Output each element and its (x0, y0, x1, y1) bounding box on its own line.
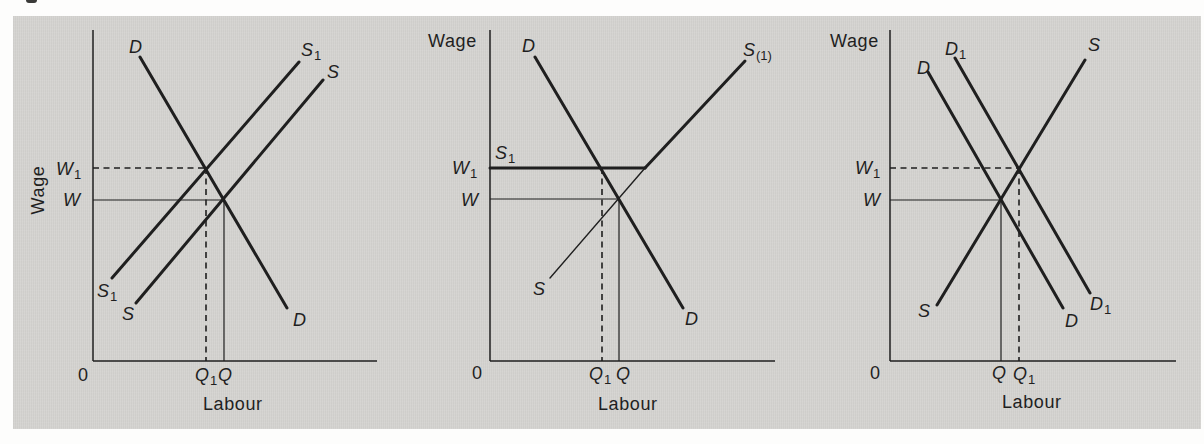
label-S1-bottom: S1 (97, 281, 117, 304)
label-W: W (63, 190, 82, 210)
xlabel-labour: Labour (598, 394, 658, 414)
label-Q1: Q1 (589, 364, 611, 387)
label-Q1: Q1 (1013, 364, 1035, 387)
label-D-bottom: D (685, 309, 698, 329)
label-Q: Q (992, 363, 1006, 383)
xlabel-labour: Labour (203, 394, 263, 414)
origin-label: 0 (472, 363, 483, 383)
ylabel-wage: Wage (28, 166, 48, 215)
label-W: W (461, 190, 480, 210)
label-S-top: S (1088, 35, 1100, 55)
supply-curve-S1-upper (645, 61, 745, 168)
supply-curve-S (937, 60, 1085, 305)
label-S1-top: S1 (301, 40, 321, 63)
label-W1: W1 (855, 158, 880, 181)
supply-curve-S (136, 80, 323, 303)
label-D1-bottom: D1 (1090, 294, 1111, 317)
ylabel-wage: Wage (830, 31, 879, 51)
label-D-top: D (522, 36, 535, 56)
left-panel-supply-shift: WageLabour0DS1SW1WS1SDQ1Q (28, 30, 377, 414)
label-D-bottom: D (1065, 311, 1078, 331)
right-panel-demand-shift: WageLabour0DD1SW1WSDD1QQ1 (830, 30, 1176, 412)
demand-curve-D (928, 72, 1063, 308)
label-D-bottom: D (293, 310, 306, 330)
xlabel-labour: Labour (1002, 392, 1062, 412)
label-S-top: S (327, 62, 339, 82)
label-Q1: Q1 (195, 365, 217, 388)
label-W1: W1 (452, 158, 477, 181)
middle-panel-minimum-wage: WageLabour0DS(1)S1W1WSDQ1Q (428, 30, 775, 414)
ylabel-wage: Wage (428, 31, 477, 51)
label-W: W (863, 190, 882, 210)
label-W1: W1 (56, 159, 81, 182)
label-S-bottom: S (918, 301, 930, 321)
figure-svg: WageLabour0DS1SW1WS1SDQ1QWageLabour0DS(1… (0, 0, 1204, 444)
label-S1-floor: S1 (495, 143, 515, 166)
label-D-top: D (917, 58, 930, 78)
supply-curve-S-thin (550, 168, 645, 278)
demand-curve-D1-shifted (955, 58, 1090, 293)
figure: WageLabour0DS1SW1WS1SDQ1QWageLabour0DS(1… (0, 0, 1204, 444)
label-S-bottom: S (122, 304, 134, 324)
label-S(1)-top: S(1) (743, 40, 772, 63)
label-S-bottom: S (533, 279, 545, 299)
label-D1-top: D1 (945, 39, 966, 62)
origin-label: 0 (870, 363, 881, 383)
label-D-top: D (129, 37, 142, 57)
label-Q: Q (218, 365, 232, 385)
label-Q: Q (616, 364, 630, 384)
origin-label: 0 (78, 365, 89, 385)
